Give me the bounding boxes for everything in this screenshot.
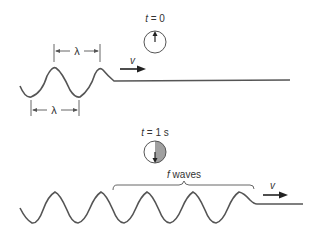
velocity-label-top: v <box>130 55 136 66</box>
velocity-arrow-bottom: v <box>263 180 288 199</box>
clock-label-t1s: t = 1 s <box>141 127 169 138</box>
clock-t0: t = 0 <box>144 13 166 53</box>
velocity-label-bottom: v <box>270 180 276 191</box>
brace-label: f waves <box>167 169 201 180</box>
wavelength-label-bottom: λ <box>51 104 57 116</box>
top-wave <box>20 68 290 97</box>
f-waves-brace: f waves <box>113 169 254 190</box>
clock-label-t0: t = 0 <box>145 13 165 24</box>
velocity-arrow-top: v <box>120 55 146 73</box>
wave-diagram: λ λ v t = 0 t = 1 s f waves <box>0 0 321 237</box>
wavelength-label-top: λ <box>74 45 80 57</box>
bottom-wave <box>20 192 303 223</box>
wavelength-dimension-bottom: λ <box>31 100 79 116</box>
wavelength-dimension-top: λ <box>54 44 100 62</box>
clock-t1s: t = 1 s <box>141 127 169 163</box>
